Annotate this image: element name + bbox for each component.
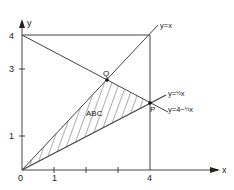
x-axis-arrow-icon — [210, 167, 220, 173]
line-label-y-4-minus-half-x: y=4−½x — [168, 105, 193, 114]
point-q-label: Q — [103, 69, 109, 78]
line-label-y-eq-x: y=x — [160, 21, 172, 30]
y-axis-arrow-icon — [19, 19, 25, 28]
y-tick-label-1: 1 — [9, 131, 14, 141]
x-tick-label-4: 4 — [147, 173, 152, 183]
region-abc — [22, 80, 150, 170]
point-q — [105, 78, 109, 82]
point-p-label: P — [150, 105, 155, 114]
y-tick-label-4: 4 — [9, 31, 14, 41]
x-tick-label-1: 1 — [52, 173, 57, 183]
y-tick-label-3: 3 — [9, 64, 14, 74]
region-label: ABC — [86, 109, 103, 118]
y-axis-label: y — [27, 18, 32, 28]
x-axis-label: x — [222, 165, 227, 175]
x-tick-label-0: 0 — [18, 173, 23, 183]
diagram: y x 4 3 1 0 1 4 Q P ABC y=x y=½x y=4−½x — [0, 0, 234, 190]
line-label-y-half-x: y=½x — [168, 89, 185, 98]
